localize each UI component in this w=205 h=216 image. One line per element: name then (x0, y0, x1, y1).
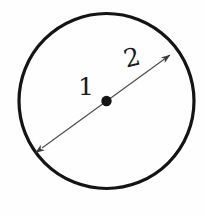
center-point-dot (101, 96, 111, 106)
figure-canvas: 1 2 (0, 0, 205, 216)
center-point-label: 1 (78, 74, 94, 99)
circle-diagram-svg (0, 0, 205, 216)
